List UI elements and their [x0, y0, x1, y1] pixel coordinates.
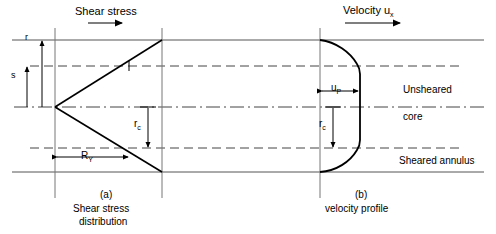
figure-canvas: Shear stress Velocity ux r s RY rc uP rc…: [0, 0, 496, 234]
caption-a-tag: (a): [100, 189, 112, 200]
dimension-label-s: s: [11, 70, 16, 80]
shear-stress-upper-branch: [55, 40, 162, 107]
dimension-label-rc-b-subscript: c: [322, 124, 326, 131]
header-velocity-subscript: x: [390, 11, 394, 18]
header-velocity-base: Velocity u: [343, 4, 390, 16]
shear-stress-lower-branch: [55, 107, 162, 172]
dimension-label-ry: RY: [81, 150, 93, 163]
dimension-label-r: r: [25, 32, 28, 42]
caption-a-line1: Shear stress: [73, 203, 129, 214]
dimension-label-up: uP: [331, 82, 341, 95]
header-velocity: Velocity ux: [343, 4, 394, 18]
header-shear-stress: Shear stress: [75, 5, 137, 17]
dimension-label-rc-b: rc: [319, 118, 326, 131]
dimension-label-ry-subscript: Y: [88, 156, 93, 163]
annotation-sheared-annulus: Sheared annulus: [399, 155, 475, 166]
caption-a-line2: distribution: [79, 216, 127, 227]
caption-b-line1: velocity profile: [325, 203, 388, 214]
caption-b-tag: (b): [355, 189, 367, 200]
dimension-label-rc-a-subscript: c: [137, 124, 141, 131]
dimension-label-rc-a: rc: [134, 118, 141, 131]
velocity-profile-curve: [320, 40, 360, 172]
annotation-core: core: [403, 111, 422, 122]
dimension-label-up-subscript: P: [337, 88, 342, 95]
annotation-unsheared: Unsheared: [403, 84, 452, 95]
